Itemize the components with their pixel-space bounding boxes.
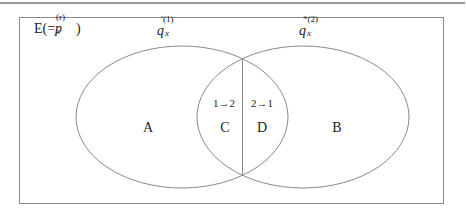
right-set-ellipse — [197, 46, 409, 188]
right-set-sub: x — [307, 29, 311, 38]
universe-box — [20, 18, 444, 204]
right-set-label: q*(2)x — [299, 24, 306, 38]
region-a-label: A — [143, 121, 153, 135]
transition-d-label: 2→1 — [251, 98, 273, 109]
left-set-var: q — [157, 23, 164, 38]
venn-diagram: E(=p(r)x) q′(1)x q*(2)x 1→2 2→1 A C D B — [0, 0, 466, 216]
universe-label-sub: x — [56, 27, 60, 36]
left-set-sup: ′(1) — [161, 15, 173, 24]
left-set-label: q′(1)x — [157, 24, 164, 38]
region-c-label: C — [220, 121, 229, 135]
left-set-ellipse — [76, 46, 288, 188]
right-set-var: q — [299, 23, 306, 38]
transition-c-label: 1→2 — [213, 98, 235, 109]
universe-label-sup: (r) — [56, 13, 65, 22]
left-set-sub: x — [165, 29, 169, 38]
universe-label-suffix: ) — [76, 21, 81, 36]
right-set-sup: *(2) — [303, 15, 318, 24]
universe-label: E(=p(r)x) — [34, 22, 81, 36]
region-b-label: B — [332, 121, 341, 135]
region-d-label: D — [257, 121, 267, 135]
universe-label-prefix: E(= — [34, 21, 55, 36]
